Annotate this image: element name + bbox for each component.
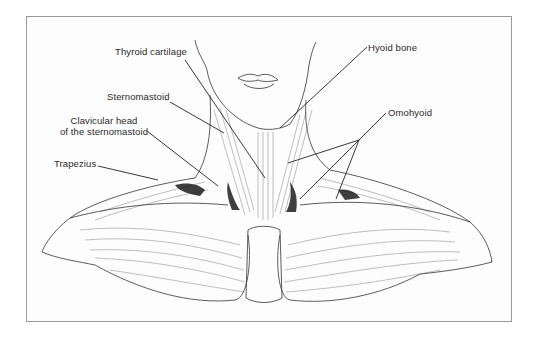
- label-clavicular-head-line2: of the sternomastoid: [58, 126, 150, 137]
- leader-omohyoid: [288, 113, 386, 199]
- leader-thyroid-cartilage: [185, 60, 265, 178]
- label-sternomastoid: Sternomastoid: [107, 91, 170, 102]
- label-trapezius: Trapezius: [54, 158, 96, 169]
- leader-trapezius: [98, 166, 158, 180]
- label-hyoid-bone: Hyoid bone: [368, 42, 417, 53]
- jaw-outline: [195, 40, 316, 129]
- leader-sternomastoid: [170, 102, 224, 133]
- leader-hyoid-bone: [280, 47, 367, 128]
- label-thyroid-cartilage: Thyroid cartilage: [115, 46, 187, 57]
- leader-clavicular-head: [147, 131, 218, 186]
- label-clavicular-head: Clavicular head of the sternomastoid: [58, 115, 150, 137]
- label-clavicular-head-line1: Clavicular head: [58, 115, 150, 126]
- anatomy-illustration: [0, 0, 536, 338]
- label-omohyoid: Omohyoid: [388, 107, 432, 118]
- lips: [238, 74, 278, 81]
